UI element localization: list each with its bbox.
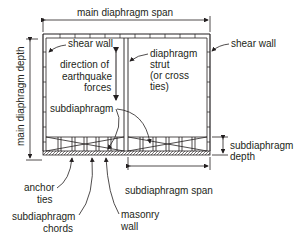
anchor-leader xyxy=(57,158,72,188)
sub-depth-label-1: subdiaphragm xyxy=(230,140,293,151)
direction-label-3: forces xyxy=(84,82,111,93)
masonry-label-2: wall xyxy=(120,221,138,232)
sub-span-label: subdiaphragm span xyxy=(125,185,213,196)
chords-leader xyxy=(79,158,92,215)
anchor-label-1: anchor xyxy=(24,182,55,193)
anchor-label-2: ties xyxy=(37,194,53,205)
strut-leader xyxy=(130,54,148,61)
direction-label-2: earthquake xyxy=(62,71,112,82)
shear-wall-right-leader xyxy=(212,44,229,51)
shear-wall-right-label: shear wall xyxy=(231,38,276,49)
main-depth-label: main diaphragm depth xyxy=(15,46,26,146)
strut-label-2: strut xyxy=(150,59,170,70)
subdiaphragm-label: subdiaphragm xyxy=(50,103,113,114)
main-span-label: main diaphragm span xyxy=(77,7,173,18)
direction-label-1: direction of xyxy=(60,59,109,70)
chords-label-1: subdiaphragm xyxy=(12,211,75,222)
shear-wall-left-label: shear wall xyxy=(68,38,113,49)
chords-label-2: chords xyxy=(43,223,73,234)
masonry-label-1: masonry xyxy=(121,209,159,220)
strut-label-1: diaphragm xyxy=(150,48,197,59)
sub-depth-label-2: depth xyxy=(230,151,255,162)
subdiaphragm-span-dimension xyxy=(128,157,210,170)
diaphragm-diagram: main diaphragm span main diaphragm depth xyxy=(0,0,304,241)
masonry-leader xyxy=(106,158,119,214)
diaphragm-strut xyxy=(124,38,128,151)
main-span-dimension xyxy=(43,16,210,32)
strut-label-4: ties) xyxy=(150,81,169,92)
subdiaphragm-framing xyxy=(46,137,207,151)
strut-label-3: (or cross xyxy=(150,70,189,81)
masonry-wall xyxy=(43,151,210,155)
subdiaphragm-depth-dimension xyxy=(212,137,228,155)
subdiaphragm-leader-left xyxy=(108,109,119,149)
shear-wall-left-leader xyxy=(49,45,66,52)
main-depth-dimension xyxy=(26,39,42,160)
